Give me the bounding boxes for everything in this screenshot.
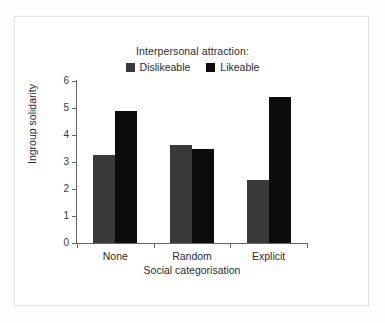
y-axis-tick-label: 6 xyxy=(57,76,69,86)
legend-swatch-likeable xyxy=(206,63,215,72)
y-axis-tick-label: 5 xyxy=(57,103,69,113)
bar xyxy=(269,97,291,243)
y-axis-tick-label: 1 xyxy=(57,211,69,221)
bar xyxy=(115,111,137,243)
x-axis-tick xyxy=(307,244,308,248)
x-axis-category-labels: NoneRandomExplicit xyxy=(77,244,307,264)
legend-entry-dislikeable: Dislikeable xyxy=(126,61,191,73)
legend-title: Interpersonal attraction: xyxy=(0,44,385,58)
bar xyxy=(93,155,115,243)
bar xyxy=(247,180,269,243)
legend-label-dislikeable: Dislikeable xyxy=(140,61,191,73)
y-axis-tick-label: 2 xyxy=(57,184,69,194)
y-axis-tick-label: 4 xyxy=(57,130,69,140)
legend-items: Dislikeable Likeable xyxy=(0,61,385,73)
legend-swatch-dislikeable xyxy=(126,63,135,72)
x-axis-title: Social categorisation xyxy=(77,264,307,276)
plot-area xyxy=(77,81,307,243)
y-axis-tick-label: 0 xyxy=(57,238,69,248)
bar xyxy=(192,149,214,243)
x-axis-category-label: Random xyxy=(157,250,227,262)
figure: Interpersonal attraction: Dislikeable Li… xyxy=(0,0,385,323)
y-axis-title: Ingroup solidarity xyxy=(26,84,38,164)
y-axis-tick-label: 3 xyxy=(57,157,69,167)
x-axis-category-label: Explicit xyxy=(234,250,304,262)
legend-entry-likeable: Likeable xyxy=(206,61,259,73)
chart-legend: Interpersonal attraction: Dislikeable Li… xyxy=(0,44,385,73)
legend-label-likeable: Likeable xyxy=(220,61,259,73)
bar xyxy=(170,145,192,243)
x-axis-category-label: None xyxy=(80,250,150,262)
